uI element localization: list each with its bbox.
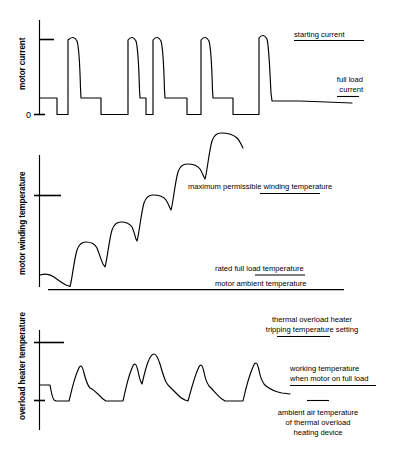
working-temperature-full-load-label-line1: working temperature: [289, 364, 359, 373]
motor-protection-diagram: 0 motor current starting current full lo…: [0, 0, 399, 457]
ambient-air-temperature-label-line2: of thermal overload: [285, 418, 350, 427]
full-load-current-label-line2: current: [339, 85, 364, 94]
winding-temperature-trace: [40, 133, 243, 287]
maximum-permissible-winding-temperature-label: maximum permissible winding temperature: [188, 182, 332, 191]
thermal-overload-tripping-setting-label-line2: tripping temperature setting: [266, 325, 358, 334]
motor-ambient-temperature-label: motor ambient temperature: [215, 279, 307, 288]
panel-motor-winding-temperature: motor winding temperature maximum permis…: [18, 133, 344, 290]
ambient-air-temperature-label-line3: heating device: [294, 428, 343, 437]
full-load-current-label-line1: full load: [337, 75, 363, 84]
starting-current-label: starting current: [294, 30, 346, 39]
panel-overload-heater-temperature: overload heater temperature thermal over…: [18, 312, 376, 437]
ambient-air-temperature-label-line1: ambient air temperature: [278, 408, 359, 417]
panel-motor-current: 0 motor current starting current full lo…: [18, 20, 364, 120]
current-zero-label: 0: [26, 110, 31, 120]
heater-axis-label: overload heater temperature: [18, 312, 27, 420]
thermal-overload-tripping-setting-label-line1: thermal overload heater: [272, 315, 353, 324]
current-axis-label: motor current: [18, 37, 27, 90]
rated-full-load-temperature-label: rated full load temperature: [215, 264, 304, 273]
winding-axis-label: motor winding temperature: [18, 171, 27, 275]
overload-heater-temperature-trace: [40, 354, 290, 401]
working-temperature-full-load-label-line2: when motor on full load: [289, 374, 369, 383]
diagram-canvas: 0 motor current starting current full lo…: [0, 0, 399, 457]
motor-current-trace: [40, 35, 352, 114]
